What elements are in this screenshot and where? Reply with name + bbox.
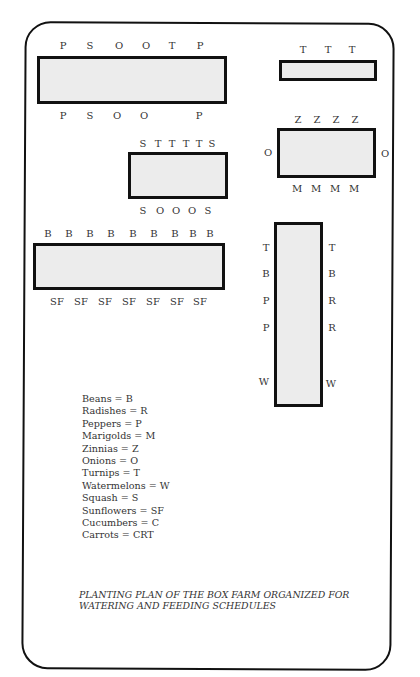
bed-5-top-label: B <box>44 228 51 239</box>
legend-item: Turnips = T <box>82 467 170 479</box>
bed-2-top-label: T <box>300 44 307 55</box>
bed-5 <box>33 243 225 290</box>
bed-1-top-label: T <box>169 40 176 51</box>
bed-5-bottom-label: SF <box>193 296 207 307</box>
bed-1-top-label: O <box>142 40 150 51</box>
legend-item: Zinnias = Z <box>82 443 170 455</box>
bed-4-top-label: T <box>155 138 162 149</box>
bed-1-bottom-label: O <box>113 110 121 121</box>
bed-4-top-label: T <box>169 138 176 149</box>
caption: PLANTING PLAN OF THE BOX FARM ORGANIZED … <box>79 589 399 611</box>
bed-3-bottom-label: M <box>292 183 302 194</box>
bed-4-top-label: S <box>209 138 216 149</box>
legend-item: Marigolds = M <box>82 430 170 442</box>
bed-5-bottom-label: SF <box>170 296 184 307</box>
bed-3-top-label: Z <box>333 114 340 125</box>
bed-3-right-label: O <box>381 148 389 159</box>
bed-3-bottom-label: M <box>311 183 321 194</box>
bed-4-top-label: T <box>183 138 190 149</box>
bed-6-right-label: W <box>326 378 336 389</box>
bed-4-bottom-label: S <box>205 205 212 216</box>
bed-5-bottom-label: SF <box>74 296 88 307</box>
bed-6-right-label: R <box>328 322 336 333</box>
bed-5-top-label: B <box>86 228 93 239</box>
bed-4 <box>128 152 228 199</box>
legend-item: Squash = S <box>82 492 170 504</box>
bed-4-top-label: T <box>196 138 203 149</box>
bed-6-left-label: T <box>263 242 270 253</box>
bed-1-bottom-label: S <box>87 110 94 121</box>
bed-1-top-label: P <box>60 40 67 51</box>
bed-6 <box>274 222 323 407</box>
legend-item: Peppers = P <box>82 418 170 430</box>
bed-6-right-label: R <box>328 295 336 306</box>
bed-4-bottom-label: O <box>156 205 164 216</box>
bed-5-bottom-label: SF <box>146 296 160 307</box>
bed-4-bottom-label: O <box>172 205 180 216</box>
bed-5-top-label: B <box>65 228 72 239</box>
bed-5-bottom-label: SF <box>122 296 136 307</box>
bed-6-right-label: T <box>329 242 336 253</box>
bed-3-left-label: O <box>264 147 272 158</box>
bed-6-left-label: B <box>262 268 269 279</box>
bed-3-top-label: Z <box>314 114 321 125</box>
legend: Beans = B Radishes = R Peppers = P Marig… <box>82 393 170 542</box>
bed-6-right-label: B <box>328 268 335 279</box>
bed-6-left-label: P <box>263 295 270 306</box>
bed-1-bottom-label: P <box>60 110 67 121</box>
legend-item: Beans = B <box>82 393 170 405</box>
legend-item: Carrots = CRT <box>82 529 170 541</box>
bed-3-top-label: Z <box>295 114 302 125</box>
bed-6-left-label: P <box>263 322 270 333</box>
bed-2 <box>279 60 377 81</box>
bed-5-top-label: B <box>206 228 213 239</box>
bed-1 <box>37 56 227 104</box>
bed-5-top-label: B <box>150 228 157 239</box>
bed-3 <box>277 128 376 178</box>
bed-5-top-label: B <box>107 228 114 239</box>
bed-6-left-label: W <box>259 376 269 387</box>
bed-3-bottom-label: M <box>349 183 359 194</box>
bed-5-top-label: B <box>171 228 178 239</box>
bed-1-bottom-label: P <box>196 110 203 121</box>
legend-item: Onions = O <box>82 455 170 467</box>
caption-line-1: PLANTING PLAN OF THE BOX FARM ORGANIZED … <box>79 589 399 600</box>
bed-1-top-label: S <box>87 40 94 51</box>
bed-4-top-label: S <box>140 138 147 149</box>
bed-2-top-label: T <box>325 44 332 55</box>
bed-2-top-label: T <box>349 44 356 55</box>
bed-4-bottom-label: O <box>188 205 196 216</box>
bed-5-bottom-label: SF <box>50 296 64 307</box>
bed-1-top-label: P <box>197 40 204 51</box>
legend-item: Watermelons = W <box>82 480 170 492</box>
bed-1-bottom-label: O <box>140 110 148 121</box>
bed-5-top-label: B <box>189 228 196 239</box>
legend-item: Cucumbers = C <box>82 517 170 529</box>
legend-item: Radishes = R <box>82 405 170 417</box>
bed-3-top-label: Z <box>352 114 359 125</box>
caption-line-2: WATERING AND FEEDING SCHEDULES <box>79 600 399 611</box>
bed-5-bottom-label: SF <box>98 296 112 307</box>
legend-item: Sunflowers = SF <box>82 505 170 517</box>
bed-3-bottom-label: M <box>330 183 340 194</box>
bed-1-top-label: O <box>115 40 123 51</box>
bed-5-top-label: B <box>129 228 136 239</box>
bed-4-bottom-label: S <box>140 205 147 216</box>
